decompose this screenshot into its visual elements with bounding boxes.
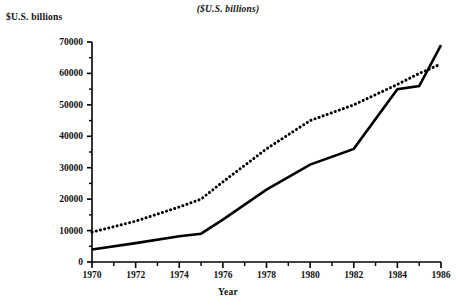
y-tick-label: 30000: [0, 163, 83, 173]
y-tick-label: 40000: [0, 131, 83, 141]
x-tick-label: 1978: [257, 270, 276, 280]
x-tick-label: 1980: [301, 270, 320, 280]
x-tick-label: 1974: [170, 270, 189, 280]
x-tick-label: 1976: [213, 270, 232, 280]
chart-figure: ($U.S. billions) $U.S. billions Year 010…: [0, 0, 456, 306]
x-tick-label: 1982: [344, 270, 363, 280]
y-tick-label: 10000: [0, 226, 83, 236]
x-tick-label: 1970: [83, 270, 102, 280]
x-tick-label: 1984: [388, 270, 407, 280]
series-dotted-series: [92, 64, 441, 232]
plot-area: 0100002000030000400005000060000700001970…: [0, 0, 456, 306]
x-tick-label: 1972: [126, 270, 145, 280]
y-tick-label: 70000: [0, 37, 83, 47]
y-tick-label: 60000: [0, 68, 83, 78]
x-tick-label: 1986: [432, 270, 451, 280]
y-tick-label: 0: [0, 257, 83, 267]
y-tick-label: 50000: [0, 100, 83, 110]
y-tick-label: 20000: [0, 194, 83, 204]
